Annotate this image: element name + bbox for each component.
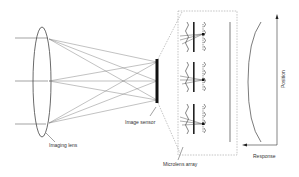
imaging-lens-label: Imaging lens (49, 143, 77, 148)
microlens-group-2 (180, 62, 206, 92)
microlens-leader (178, 147, 183, 160)
response-label: Response (253, 154, 276, 159)
optical-diagram (0, 0, 299, 177)
position-arrowhead-icon (276, 14, 279, 19)
sensor-leader (150, 107, 156, 116)
image-sensor-label: Image sensor (125, 120, 155, 125)
response-curve (248, 22, 261, 142)
microlens-group-3 (180, 104, 206, 134)
incoming-rays (15, 38, 48, 124)
microlens-array-label: Microlens array (163, 162, 197, 167)
imaging-lens (33, 27, 51, 137)
lens-leader (46, 133, 55, 142)
converging-rays (49, 39, 157, 123)
zoom-projection-lines (158, 12, 182, 153)
microlens-group-1 (180, 22, 206, 52)
position-label: Position (281, 70, 286, 88)
response-arrowhead-icon (242, 144, 247, 147)
microlens-array (180, 22, 206, 134)
image-sensor (156, 59, 159, 103)
